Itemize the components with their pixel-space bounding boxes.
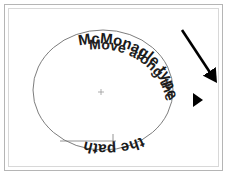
cursor-triangle [193, 93, 203, 107]
direction-arrow [182, 30, 211, 74]
curved-label-lower: the path [81, 134, 147, 158]
vector-artwork: McMonagle type Move along the path the p… [0, 0, 229, 177]
ellipse-center-mark [98, 89, 104, 95]
illustration-canvas: McMonagle type Move along the path the p… [0, 0, 229, 177]
